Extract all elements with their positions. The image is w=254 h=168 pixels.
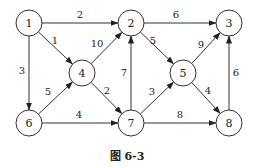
- edge-2-5: [140, 32, 173, 64]
- node-7: 7: [118, 110, 144, 136]
- graph-diagram: 2136510294547386 12345678: [0, 0, 254, 168]
- edge-weight-label: 4: [205, 85, 211, 96]
- edge-7-5: [140, 82, 173, 114]
- edge-weight-label: 4: [76, 109, 82, 120]
- node-8: 8: [216, 110, 242, 136]
- node-5: 5: [170, 60, 196, 86]
- edge-weight-label: 3: [149, 86, 155, 97]
- node-label: 3: [226, 17, 233, 30]
- edge-5-3: [192, 33, 220, 64]
- figure-caption: 图 6-3: [0, 147, 254, 163]
- edge-weight-label: 10: [91, 38, 104, 49]
- edge-6-4: [38, 82, 72, 114]
- node-label: 6: [26, 117, 33, 130]
- edge-weight-label: 6: [233, 67, 239, 78]
- edge-weight-label: 5: [45, 86, 51, 97]
- node-4: 4: [69, 60, 95, 86]
- node-6: 6: [16, 110, 42, 136]
- nodes: 12345678: [16, 10, 242, 136]
- edge-weight-label: 1: [52, 35, 58, 46]
- edge-weight-label: 9: [198, 39, 204, 50]
- edge-weight-label: 5: [150, 35, 156, 46]
- edge-weight-label: 2: [77, 9, 83, 20]
- node-3: 3: [216, 10, 242, 36]
- node-1: 1: [16, 10, 42, 36]
- node-label: 2: [128, 17, 135, 30]
- edge-weight-label: 2: [104, 85, 110, 96]
- node-2: 2: [118, 10, 144, 36]
- node-label: 1: [26, 17, 33, 30]
- edge-weight-label: 6: [173, 9, 179, 20]
- node-label: 7: [128, 117, 135, 130]
- edge-weight-label: 3: [19, 65, 25, 76]
- edge-weight-label: 8: [177, 109, 183, 120]
- node-label: 4: [79, 67, 86, 80]
- edge-weight-label: 7: [121, 67, 127, 78]
- node-label: 5: [180, 67, 187, 80]
- node-label: 8: [226, 117, 233, 130]
